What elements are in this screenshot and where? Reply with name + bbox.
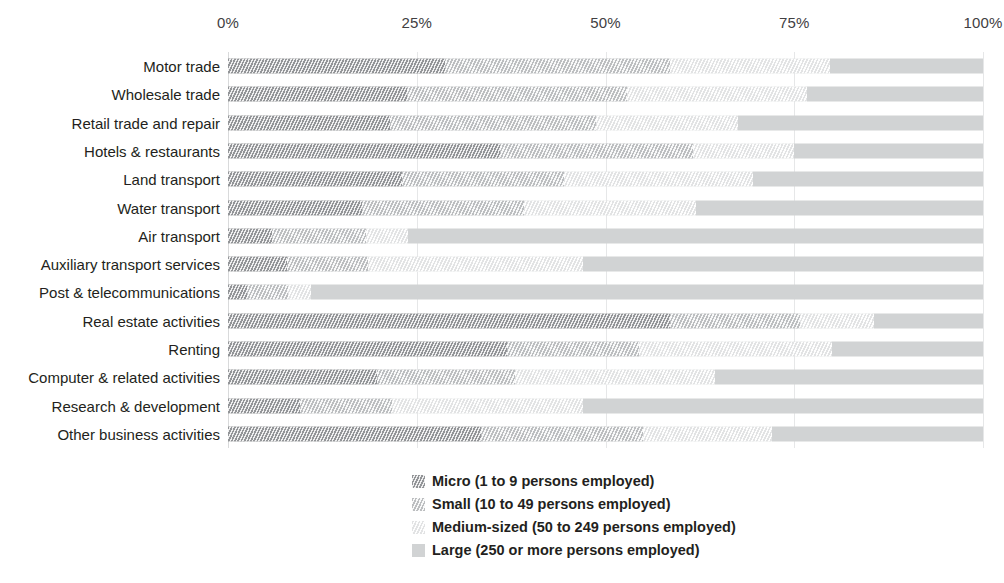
bar-segment-small — [247, 285, 289, 300]
bar-segment-micro — [228, 285, 247, 300]
bar-segment-small — [507, 341, 638, 356]
legend-label: Large (250 or more persons employed) — [432, 543, 700, 558]
bar-row: Wholesale trade — [228, 80, 983, 108]
x-tick-label: 75% — [779, 14, 810, 31]
bar-segment-micro — [228, 172, 402, 187]
legend-label: Small (10 to 49 persons employed) — [432, 497, 671, 512]
bar-row: Research & development — [228, 391, 983, 419]
bar-segment-small — [481, 426, 643, 441]
bar-row: Retail trade and repair — [228, 109, 983, 137]
bar-segment-large — [715, 370, 983, 385]
bar-segment-medium — [515, 370, 715, 385]
legend-item: Medium-sized (50 to 249 persons employed… — [412, 516, 882, 539]
bar-row: Computer & related activities — [228, 363, 983, 391]
legend-label: Medium-sized (50 to 249 persons employed… — [432, 520, 736, 535]
gridline — [983, 52, 984, 448]
category-label: Hotels & restaurants — [84, 143, 220, 158]
bar-track — [228, 313, 983, 328]
bar-segment-micro — [228, 313, 670, 328]
bar-segment-micro — [228, 143, 500, 158]
bar-segment-small — [287, 257, 368, 272]
legend-label: Micro (1 to 9 persons employed) — [432, 474, 654, 489]
category-label: Renting — [168, 341, 220, 356]
bar-segment-micro — [228, 59, 445, 74]
bar-segment-large — [830, 59, 983, 74]
bar-track — [228, 341, 983, 356]
stacked-bar-chart: 0%25%50%75%100% Motor tradeWholesale tra… — [0, 0, 1004, 583]
bar-track — [228, 398, 983, 413]
bar-segment-medium — [670, 59, 830, 74]
bar-row: Land transport — [228, 165, 983, 193]
bar-segment-small — [402, 172, 564, 187]
x-tick-label: 25% — [401, 14, 432, 31]
bar-segment-large — [738, 115, 983, 130]
bar-segment-large — [753, 172, 983, 187]
bar-segment-large — [874, 313, 983, 328]
bar-row: Real estate activities — [228, 307, 983, 335]
bar-segment-micro — [228, 228, 272, 243]
bar-track — [228, 257, 983, 272]
bar-segment-micro — [228, 257, 287, 272]
bar-segment-medium — [643, 426, 771, 441]
bar-segment-small — [300, 398, 392, 413]
bar-segment-large — [772, 426, 983, 441]
hatched-dark-swatch — [412, 475, 425, 488]
bar-segment-small — [500, 143, 693, 158]
bar-segment-micro — [228, 200, 362, 215]
bar-segment-medium — [392, 398, 583, 413]
bar-segment-medium — [564, 172, 753, 187]
bar-segment-medium — [368, 257, 583, 272]
bar-segment-large — [696, 200, 983, 215]
bar-segment-small — [272, 228, 366, 243]
category-label: Computer & related activities — [28, 370, 220, 385]
bar-track — [228, 228, 983, 243]
chart-legend: Micro (1 to 9 persons employed)Small (10… — [412, 470, 882, 562]
bar-segment-medium — [366, 228, 408, 243]
bar-segment-medium — [693, 143, 794, 158]
bar-track — [228, 59, 983, 74]
bar-track — [228, 143, 983, 158]
bar-segment-medium — [596, 115, 737, 130]
bar-segment-small — [407, 87, 627, 102]
bar-segment-micro — [228, 87, 407, 102]
bar-row: Other business activities — [228, 420, 983, 448]
bar-segment-small — [390, 115, 596, 130]
bar-segment-medium — [524, 200, 696, 215]
bar-track — [228, 115, 983, 130]
category-label: Water transport — [117, 200, 220, 215]
bar-segment-medium — [288, 285, 311, 300]
legend-item: Large (250 or more persons employed) — [412, 539, 882, 562]
bar-segment-medium — [627, 87, 807, 102]
bar-segment-large — [832, 341, 983, 356]
category-label: Land transport — [123, 172, 220, 187]
hatched-mid-swatch — [412, 498, 425, 511]
hatched-light-swatch — [412, 521, 425, 534]
category-label: Motor trade — [143, 59, 220, 74]
bar-segment-large — [807, 87, 983, 102]
x-tick-label: 0% — [217, 14, 239, 31]
category-label: Other business activities — [57, 426, 220, 441]
bar-segment-medium — [800, 313, 874, 328]
plot-area: Motor tradeWholesale tradeRetail trade a… — [228, 52, 983, 448]
bar-row: Renting — [228, 335, 983, 363]
bar-track — [228, 172, 983, 187]
bar-segment-small — [670, 313, 801, 328]
category-label: Air transport — [138, 228, 220, 243]
bar-row: Auxiliary transport services — [228, 250, 983, 278]
bar-track — [228, 370, 983, 385]
bar-row: Motor trade — [228, 52, 983, 80]
legend-item: Small (10 to 49 persons employed) — [412, 493, 882, 516]
bar-segment-micro — [228, 370, 377, 385]
x-tick-label: 50% — [590, 14, 621, 31]
bar-segment-large — [583, 398, 983, 413]
bar-segment-large — [311, 285, 983, 300]
bar-row: Water transport — [228, 193, 983, 221]
bar-segment-micro — [228, 341, 507, 356]
category-label: Auxiliary transport services — [41, 257, 220, 272]
bar-segment-micro — [228, 115, 390, 130]
bar-segment-large — [794, 143, 983, 158]
bar-row: Hotels & restaurants — [228, 137, 983, 165]
x-axis-tick-labels: 0%25%50%75%100% — [0, 14, 1004, 36]
category-label: Research & development — [52, 398, 220, 413]
bar-segment-medium — [639, 341, 832, 356]
